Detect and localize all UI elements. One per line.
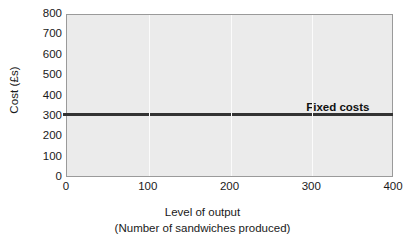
y-axis-tick-label: 200 <box>28 131 62 143</box>
y-axis-tick-label: 700 <box>28 29 62 41</box>
fixed-costs-annotation-label: Fixed costs <box>306 102 369 114</box>
y-axis-tick-label: 600 <box>28 49 62 61</box>
y-axis-title: Cost (£s) <box>0 0 28 180</box>
y-axis-tick-label: 300 <box>28 110 62 122</box>
fixed-costs-chart: Cost (£s) 0100200300400500600700800 Fixe… <box>0 0 405 242</box>
vertical-gridline <box>231 15 232 176</box>
y-axis-tick-label: 400 <box>28 90 62 102</box>
vertical-gridline <box>312 15 313 176</box>
y-axis-tick-label: 0 <box>28 171 62 183</box>
x-axis-tick-label: 100 <box>138 181 157 193</box>
x-axis-tick-label: 0 <box>63 181 69 193</box>
y-axis-tick-label: 500 <box>28 69 62 81</box>
y-axis-tick-label: 100 <box>28 151 62 163</box>
fixed-costs-line <box>63 113 393 116</box>
y-axis-title-label: Cost (£s) <box>8 66 20 114</box>
x-axis-tick-labels: 0100200300400 <box>66 181 393 197</box>
vertical-gridline <box>149 15 150 176</box>
x-axis-title-main: Level of output <box>0 204 405 220</box>
y-axis-tick-labels: 0100200300400500600700800 <box>28 14 62 177</box>
x-axis-title: Level of output (Number of sandwiches pr… <box>0 204 405 236</box>
x-axis-tick-label: 200 <box>220 181 239 193</box>
x-axis-title-sub: (Number of sandwiches produced) <box>0 220 405 236</box>
plot-area: Fixed costs <box>66 14 393 177</box>
x-axis-tick-label: 300 <box>302 181 321 193</box>
x-axis-tick-label: 400 <box>383 181 402 193</box>
y-axis-tick-label: 800 <box>28 8 62 20</box>
